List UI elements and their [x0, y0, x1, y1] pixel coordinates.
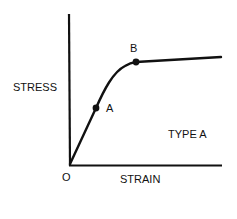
point-b-label: B: [130, 43, 137, 54]
x-axis-label: STRAIN: [120, 174, 160, 185]
y-axis-label: STRESS: [13, 82, 57, 93]
point-a-label: A: [106, 103, 113, 114]
stress-strain-chart: STRESS B A TYPE A O STRAIN: [0, 0, 237, 219]
stress-strain-curve: [70, 57, 221, 164]
type-annotation: TYPE A: [168, 129, 207, 140]
point-b-marker: [133, 59, 140, 66]
y-axis-line: [69, 14, 70, 166]
point-a-marker: [93, 105, 100, 112]
origin-label: O: [62, 172, 71, 183]
chart-plot-area: [0, 0, 237, 219]
